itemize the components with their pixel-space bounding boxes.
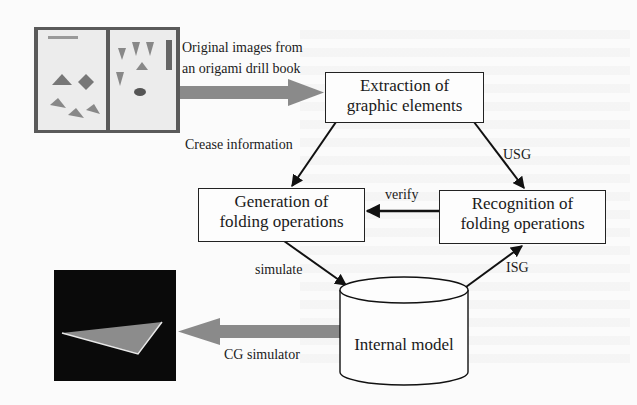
source-to-extraction-arrow (180, 79, 324, 106)
recognition-line1: Recognition of (440, 194, 605, 214)
extraction-line1: Extraction of (326, 76, 483, 96)
generation-box: Generation of folding operations (198, 188, 365, 242)
internal-model-label: Internal model (339, 335, 469, 355)
extraction-line2: graphic elements (326, 96, 483, 116)
model-to-cg-arrow (178, 318, 340, 345)
source-label-line2: an origami drill book (182, 61, 301, 77)
verify-label: verify (385, 187, 418, 203)
crease-info-label: Crease information (185, 137, 293, 153)
source-label-line1: Original images from (182, 40, 303, 56)
generation-line1: Generation of (199, 192, 364, 212)
recognition-line2: folding operations (440, 214, 605, 234)
usg-label: USG (503, 147, 531, 163)
isg-label: ISG (506, 260, 529, 276)
simulate-label: simulate (255, 262, 302, 278)
recognition-box: Recognition of folding operations (439, 190, 606, 244)
cg-simulator-label: CG simulator (224, 347, 300, 363)
generation-line2: folding operations (199, 212, 364, 232)
internal-model-cylinder (340, 277, 468, 385)
extraction-box: Extraction of graphic elements (325, 72, 484, 123)
